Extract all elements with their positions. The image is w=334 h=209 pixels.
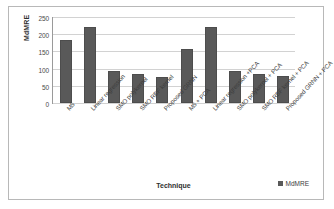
y-tick-label-250: 250 xyxy=(38,15,49,22)
x-tick-slot: SMO polykernel xyxy=(102,105,126,179)
bar[interactable] xyxy=(60,40,72,103)
y-tick-label-150: 150 xyxy=(38,49,49,56)
x-tick-slot: M5 + PCA xyxy=(174,105,198,179)
y-tick-label-100: 100 xyxy=(38,66,49,73)
y-tick-label-200: 200 xyxy=(38,32,49,39)
x-tick-slot: SMO polykernel + PCA xyxy=(223,105,247,179)
x-tick-slot: Linear regression xyxy=(77,105,101,179)
y-tick-label-50: 50 xyxy=(42,83,49,90)
bar-slot xyxy=(54,17,78,103)
x-tick-slot: SMO RBF kernel + PCA xyxy=(247,105,271,179)
bar-slot xyxy=(78,17,102,103)
y-tick-label-0: 0 xyxy=(45,101,49,108)
x-tick-slot: Linear regression +PCA xyxy=(199,105,223,179)
x-tick-slot: SMO RBF kernel xyxy=(126,105,150,179)
legend-label-mdmre: MdMRE xyxy=(286,180,309,187)
x-tick-slot: M5 xyxy=(53,105,77,179)
chart-container: MdMRE 050100150200250 M5Linear regressio… xyxy=(8,6,324,200)
x-tick-slot: Proposed GRNN + PCA xyxy=(272,105,296,179)
legend: MdMRE xyxy=(278,180,309,187)
x-axis-tick-labels: M5Linear regressionSMO polykernelSMO RBF… xyxy=(53,105,296,179)
y-axis-title: MdMRE xyxy=(23,15,30,41)
bar[interactable] xyxy=(84,27,96,103)
x-axis-title: Technique xyxy=(52,182,295,189)
legend-swatch-mdmre xyxy=(278,181,283,186)
x-tick-slot: Proposed GRNN xyxy=(150,105,174,179)
